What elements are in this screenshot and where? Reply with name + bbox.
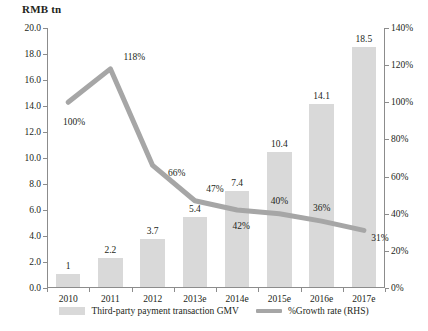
growth-rate-line: [47, 28, 385, 288]
right-axis-tick-label: 60%: [391, 172, 428, 182]
category-axis-tick: [343, 288, 344, 292]
growth-label-2012: 66%: [168, 168, 185, 178]
plot-area: 0.02.04.06.08.010.012.014.016.018.020.0 …: [47, 28, 385, 288]
left-axis-tick-label: 0.0: [1, 283, 41, 293]
chart-container: RMB tn 0.02.04.06.08.010.012.014.016.018…: [0, 0, 428, 331]
right-axis-tick: [385, 102, 389, 103]
right-axis-tick-label: 120%: [391, 60, 428, 70]
growth-label-2014e: 42%: [232, 221, 249, 231]
left-axis-tick-label: 20.0: [1, 23, 41, 33]
growth-label-2016e: 36%: [313, 203, 330, 213]
right-axis-tick: [385, 28, 389, 29]
right-axis-tick: [385, 214, 389, 215]
category-label-2011: 2011: [101, 294, 120, 304]
left-axis-tick-label: 8.0: [1, 179, 41, 189]
category-axis-tick: [216, 288, 217, 292]
left-axis-tick-label: 6.0: [1, 205, 41, 215]
category-label-2015e: 2015e: [268, 294, 291, 304]
growth-label-2013e: 47%: [206, 184, 223, 194]
chart-legend: Third-party payment transaction GMV %Gro…: [0, 306, 428, 316]
left-axis-tick-label: 16.0: [1, 75, 41, 85]
right-axis-tick: [385, 177, 389, 178]
legend-item-gmv[interactable]: Third-party payment transaction GMV: [59, 306, 238, 316]
category-axis-tick: [301, 288, 302, 292]
category-axis-tick: [132, 288, 133, 292]
category-label-2010: 2010: [59, 294, 78, 304]
growth-label-2010: 100%: [63, 117, 85, 127]
category-label-2014e: 2014e: [226, 294, 249, 304]
category-label-2012: 2012: [143, 294, 162, 304]
right-axis-tick-label: 0%: [391, 283, 428, 293]
growth-label-2011: 118%: [123, 52, 145, 62]
axis-unit-title: RMB tn: [22, 3, 61, 15]
left-axis-tick-label: 14.0: [1, 101, 41, 111]
growth-label-2015e: 40%: [271, 196, 288, 206]
category-axis-tick: [89, 288, 90, 292]
category-axis-tick: [174, 288, 175, 292]
legend-label-gmv: Third-party payment transaction GMV: [91, 306, 238, 316]
category-axis-tick: [47, 288, 48, 292]
right-axis-tick-label: 40%: [391, 209, 428, 219]
category-axis-tick: [258, 288, 259, 292]
left-axis-tick-label: 10.0: [1, 153, 41, 163]
category-label-2013e: 2013e: [183, 294, 206, 304]
right-axis-tick: [385, 251, 389, 252]
right-axis-tick-label: 140%: [391, 23, 428, 33]
right-axis-tick: [385, 139, 389, 140]
right-axis-tick-label: 80%: [391, 134, 428, 144]
left-axis-tick-label: 4.0: [1, 231, 41, 241]
category-axis-tick: [385, 288, 386, 292]
right-axis-tick-label: 100%: [391, 97, 428, 107]
right-axis-tick-label: 20%: [391, 246, 428, 256]
growth-label-2017e: 31%: [371, 233, 388, 243]
legend-item-growth[interactable]: %Growth rate (RHS): [256, 306, 369, 316]
right-axis-tick: [385, 65, 389, 66]
left-axis-tick-label: 18.0: [1, 49, 41, 59]
legend-label-growth: %Growth rate (RHS): [288, 306, 369, 316]
left-axis-tick-label: 2.0: [1, 257, 41, 267]
category-label-2017e: 2017e: [352, 294, 375, 304]
left-axis-tick-label: 12.0: [1, 127, 41, 137]
category-label-2016e: 2016e: [310, 294, 333, 304]
bar-swatch-icon: [59, 307, 85, 315]
line-swatch-icon: [256, 309, 282, 313]
